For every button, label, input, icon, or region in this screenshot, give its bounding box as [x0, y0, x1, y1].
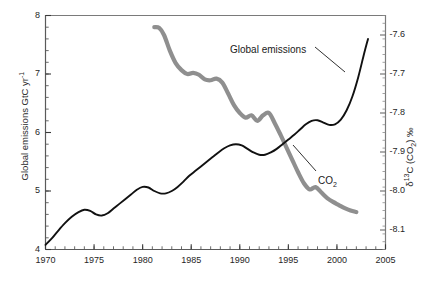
y2-tick-label: -7.7: [390, 68, 414, 78]
chart-figure: Global emissions GtC yr-1 δ13C (CO2) ‰ 1…: [0, 0, 429, 285]
y2-tick-label: -8.1: [390, 224, 414, 234]
y-tick-label: 4: [28, 244, 40, 254]
y-axis-right-title-tail: ) ‰: [404, 127, 415, 142]
x-tick-label: 1970: [32, 255, 60, 265]
y-tick-label: 8: [28, 10, 40, 20]
annotation-leader-lines: [293, 47, 345, 171]
chart-canvas: [0, 0, 429, 285]
x-tick-label: 1980: [129, 255, 157, 265]
annotation-co2-main: CO: [318, 175, 333, 186]
leader-line-global-emissions: [315, 47, 345, 72]
y-axis-left-title-exponent: -1: [18, 72, 25, 78]
y-tick-label: 6: [28, 127, 40, 137]
figure-caption: [0, 276, 429, 285]
y2-tick-label: -7.9: [390, 146, 414, 156]
x-tick-label: 2000: [323, 255, 351, 265]
y-tick-label: 5: [28, 185, 40, 195]
y2-tick-label: -8.0: [390, 185, 414, 195]
series-line-global-emissions: [46, 39, 369, 245]
x-tick-label: 1990: [226, 255, 254, 265]
y2-tick-label: -7.8: [390, 107, 414, 117]
y2-tick-label: -7.6: [390, 29, 414, 39]
x-tick-label: 1985: [177, 255, 205, 265]
y-axis-right-title: δ13C (CO2) ‰: [403, 102, 417, 212]
y-axis-right-title-exponent: 13: [403, 174, 410, 182]
annotation-co2-subscript: 2: [333, 181, 337, 188]
x-tick-label: 1975: [80, 255, 108, 265]
x-tick-label: 1995: [274, 255, 302, 265]
data-series-group: [46, 27, 369, 245]
x-tick-label: 2005: [372, 255, 400, 265]
annotation-global-emissions: Global emissions: [230, 44, 306, 55]
annotation-co2: CO2: [318, 175, 337, 188]
x-axis-major-ticks: [46, 244, 386, 249]
y-tick-label: 7: [28, 68, 40, 78]
